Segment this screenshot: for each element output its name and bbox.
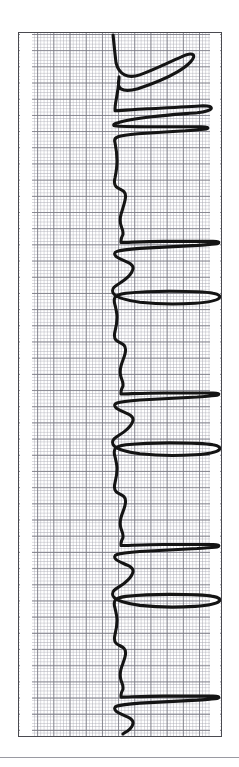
ecg-page bbox=[0, 0, 239, 767]
ecg-lead-ii-path bbox=[113, 35, 220, 734]
ecg-caption bbox=[0, 749, 239, 757]
ecg-frame-border bbox=[18, 32, 222, 737]
ecg-waveform-trace bbox=[19, 33, 221, 736]
page-bottom-divider bbox=[0, 757, 239, 758]
ecg-paper bbox=[0, 0, 239, 748]
